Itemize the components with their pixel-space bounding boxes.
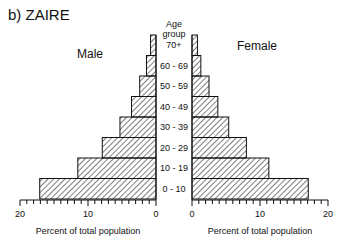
age-group-label: 10 - 19 <box>160 163 188 173</box>
age-header-line2: group <box>162 29 185 39</box>
age-group-label: 0 - 10 <box>162 184 185 194</box>
age-group-label: 60 - 69 <box>160 61 188 71</box>
male-tick-10: 10 <box>83 209 93 219</box>
female-bar <box>192 97 218 118</box>
female-x-axis-label: Percent of total population <box>208 226 313 236</box>
female-label: Female <box>237 39 277 53</box>
age-group-label: 50 - 59 <box>160 81 188 91</box>
female-bar <box>192 138 246 159</box>
female-bar <box>192 117 229 138</box>
male-bar <box>140 76 156 97</box>
age-header-line1: Age <box>166 19 182 29</box>
female-bar <box>192 179 308 200</box>
female-bar <box>192 76 209 97</box>
male-x-axis-label: Percent of total population <box>36 226 141 236</box>
male-bar <box>151 35 156 56</box>
female-bar <box>192 35 197 56</box>
male-bar <box>40 179 156 200</box>
male-tick-20: 20 <box>15 209 25 219</box>
age-group-label: 30 - 39 <box>160 122 188 132</box>
male-tick-0: 0 <box>153 209 158 219</box>
age-group-label: 70+ <box>166 40 181 50</box>
female-bars <box>192 35 308 199</box>
chart-title: b) ZAIRE <box>8 6 70 23</box>
age-group-label: 40 - 49 <box>160 102 188 112</box>
male-bar <box>132 97 156 118</box>
male-label: Male <box>77 47 103 61</box>
female-tick-0: 0 <box>189 209 194 219</box>
male-bar <box>120 117 156 138</box>
male-bar <box>146 56 156 77</box>
female-bar <box>192 158 269 179</box>
population-pyramid-chart: b) ZAIRE Male Female Age group 70+60 - 6… <box>0 0 348 250</box>
male-bar <box>102 138 156 159</box>
male-bar <box>78 158 156 179</box>
age-labels: 70+60 - 6950 - 5940 - 4930 - 3920 - 2910… <box>160 40 188 194</box>
age-group-label: 20 - 29 <box>160 143 188 153</box>
female-tick-20: 20 <box>323 209 333 219</box>
female-tick-10: 10 <box>255 209 265 219</box>
female-bar <box>192 56 201 77</box>
